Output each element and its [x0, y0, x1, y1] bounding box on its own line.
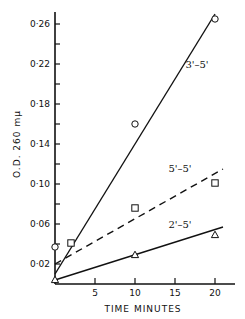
series-label: 2'–5': [168, 219, 191, 230]
series-line: [55, 169, 223, 264]
chart: 0·020·060·100·140·180·220·265101520TIME …: [0, 0, 245, 319]
y-tick-label: 0·10: [30, 179, 50, 189]
circle-marker-icon: [52, 244, 58, 250]
square-marker-icon: [132, 205, 138, 211]
x-tick-label: 15: [169, 288, 180, 298]
y-axis-title: O.D. 260 mμ: [12, 110, 22, 178]
x-tick-label: 20: [209, 288, 221, 298]
series-line: [55, 14, 215, 274]
triangle-marker-icon: [211, 231, 218, 237]
x-tick-label: 10: [129, 288, 141, 298]
square-marker-icon: [68, 240, 74, 246]
series-line: [55, 227, 223, 280]
y-tick-label: 0·02: [30, 259, 50, 269]
series-layer: 3'–5'5'–5'2'–5': [51, 14, 223, 283]
x-tick-label: 5: [92, 288, 98, 298]
y-tick-label: 0·26: [30, 19, 50, 29]
y-tick-label: 0·18: [30, 99, 50, 109]
series-label: 5'–5': [168, 163, 191, 174]
circle-marker-icon: [132, 121, 138, 127]
x-axis-title: TIME MINUTES: [103, 304, 181, 314]
circle-marker-icon: [212, 16, 218, 22]
y-tick-label: 0·22: [30, 59, 50, 69]
square-marker-icon: [212, 180, 218, 186]
series-label: 3'–5': [185, 59, 208, 70]
y-tick-label: 0·06: [30, 219, 50, 229]
y-tick-label: 0·14: [30, 139, 50, 149]
